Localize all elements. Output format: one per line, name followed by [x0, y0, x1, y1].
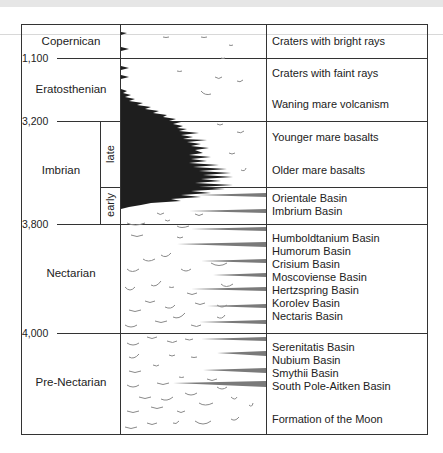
subdivision-early: early — [104, 189, 116, 221]
period-copernican: Copernican — [22, 35, 120, 47]
event-bright-rays: Craters with bright rays — [272, 35, 385, 49]
event-imbrium: Imbrium Basin — [272, 205, 342, 219]
event-serenitatis: Serenitatis Basin — [272, 341, 355, 355]
mare-ticks — [121, 32, 129, 79]
age-label-1100: 1,100 — [22, 52, 50, 64]
event-south-pole-aitken: South Pole-Aitken Basin — [272, 380, 391, 394]
mare-basalt-spikes — [121, 89, 233, 209]
period-pre-nectarian: Pre-Nectarian — [22, 376, 120, 388]
event-waning-mare: Waning mare volcanism — [272, 98, 389, 112]
period-eratosthenian: Eratosthenian — [22, 83, 120, 95]
event-korolev: Korolev Basin — [272, 297, 340, 311]
event-orientale: Orientale Basin — [272, 192, 347, 206]
age-label-3800: 3,800 — [22, 218, 50, 230]
age-label-3200: 3,200 — [22, 115, 50, 127]
basin-streaks — [173, 193, 266, 387]
lunar-activity-graphic — [121, 25, 266, 435]
top-gray-band — [0, 0, 443, 7]
event-nubium: Nubium Basin — [272, 354, 340, 368]
event-crisium: Crisium Basin — [272, 258, 340, 272]
event-hertzsprung: Hertzspring Basin — [272, 284, 359, 298]
event-humorum: Humorum Basin — [272, 245, 351, 259]
event-older-mare: Older mare basalts — [272, 164, 365, 178]
event-moscoviense: Moscoviense Basin — [272, 271, 367, 285]
subdivision-late: late — [104, 140, 116, 168]
column-divider-events-left — [266, 24, 267, 435]
period-nectarian: Nectarian — [22, 267, 120, 279]
age-label-4000: 4,000 — [22, 327, 50, 339]
event-formation-of-moon: Formation of the Moon — [272, 413, 383, 427]
event-younger-mare: Younger mare basalts — [272, 131, 379, 145]
event-humboldtianum: Humboldtanium Basin — [272, 232, 380, 246]
event-faint-rays: Craters with faint rays — [272, 67, 378, 81]
period-imbrian: Imbrian — [22, 164, 100, 176]
event-smythii: Smythii Basin — [272, 367, 339, 381]
imbrian-subcolumn-divider — [100, 121, 101, 224]
event-nectaris: Nectaris Basin — [272, 310, 343, 324]
